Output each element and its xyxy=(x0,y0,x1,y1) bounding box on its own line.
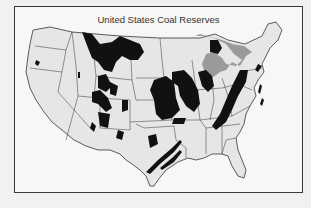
us-coal-map xyxy=(0,0,311,208)
